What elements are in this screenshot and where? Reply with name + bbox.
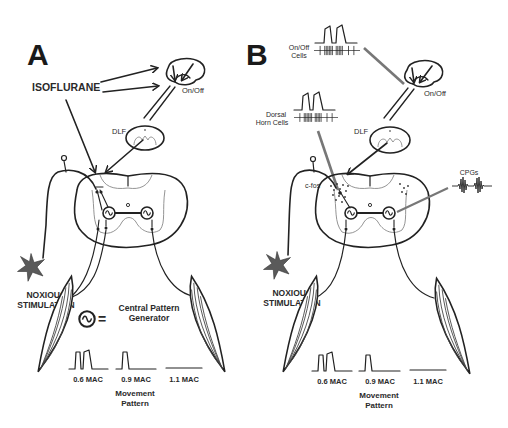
cfos-label: c-fos <box>305 182 321 189</box>
legend-equals: = <box>98 311 106 327</box>
dose-b-11-label: 1.1 MAC <box>413 377 443 386</box>
panel-b-letter: B <box>246 38 268 71</box>
svg-text:Horn Cells: Horn Cells <box>256 119 289 126</box>
legend-text-1: Central Pattern <box>119 303 180 313</box>
receptor-b-icon <box>311 157 316 162</box>
electrode-dorsal-horn <box>318 131 338 190</box>
movement-traces-b: 0.6 MAC 0.9 MAC 1.1 MAC Movement Pattern <box>312 352 446 410</box>
dose-b-09-label: 0.9 MAC <box>365 377 395 386</box>
noxious-star-b-icon <box>264 252 291 280</box>
dlf-cord-section-b: DLF <box>354 127 410 153</box>
cpg-left-icon <box>103 207 115 219</box>
electrode-cpg <box>397 188 448 212</box>
dose-09-label: 0.9 MAC <box>121 375 151 384</box>
panel-a: A ISOFLURANE On/Off DLF <box>17 38 225 408</box>
dose-06-label: 0.6 MAC <box>73 375 103 384</box>
dose-b-06-label: 0.6 MAC <box>317 377 347 386</box>
onoff-cells-recording: On/Off Cells <box>289 25 360 59</box>
svg-text:Dorsal: Dorsal <box>266 111 287 118</box>
movement-traces-a: 0.6 MAC 0.9 MAC 1.1 MAC Movement Pattern <box>69 350 202 408</box>
legend-cpg-icon <box>79 311 94 326</box>
dorsal-horn-recording: Dorsal Horn Cells <box>256 92 338 126</box>
dlf-descending-arrow <box>106 140 143 172</box>
cpgs-label: CPGs <box>460 169 479 176</box>
svg-text:Cells: Cells <box>291 52 307 59</box>
cpg-burst-trace <box>452 177 492 193</box>
cpg-b-right-icon <box>383 207 395 219</box>
legend-text-2: Generator <box>129 313 170 323</box>
right-muscle-icon <box>190 276 225 372</box>
isoflurane-arrow-cord <box>66 100 95 172</box>
isoflurane-arrow-lower <box>103 86 158 92</box>
movement-b-title-2: Pattern <box>365 401 393 410</box>
right-muscle-b-icon <box>435 278 470 374</box>
cfos-dots-right <box>399 183 409 195</box>
brainstem-onoff-label: On/Off <box>182 86 205 95</box>
movement-title-1: Movement <box>115 389 155 398</box>
receptor-icon <box>62 156 67 161</box>
electrode-onoff <box>364 48 404 84</box>
figure-canvas: A ISOFLURANE On/Off DLF <box>0 0 508 428</box>
spinal-cord-a <box>75 173 188 247</box>
brainstem-b-onoff-label: On/Off <box>424 89 447 98</box>
dose-11-label: 1.1 MAC <box>169 375 199 384</box>
dlf-cord-section: DLF <box>112 126 164 150</box>
cpg-b-left-icon <box>345 207 357 219</box>
svg-text:DLF: DLF <box>354 127 369 136</box>
svg-text:DLF: DLF <box>112 127 127 136</box>
movement-b-title-1: Movement <box>359 391 399 400</box>
isoflurane-label: ISOFLURANE <box>32 81 100 93</box>
cpg-right-icon <box>141 207 153 219</box>
dlf-descending-arrow-b <box>348 143 387 174</box>
panel-a-letter: A <box>27 38 49 71</box>
spinal-cord-b <box>316 173 430 247</box>
svg-text:On/Off: On/Off <box>289 44 310 51</box>
isoflurane-arrow-upper <box>101 68 157 82</box>
noxious-star-icon <box>18 254 45 282</box>
brainstem-section: On/Off <box>166 59 204 95</box>
movement-title-2: Pattern <box>121 399 149 408</box>
panel-b: B On/Off Cells Dorsal Horn Cells On/Off <box>246 25 492 410</box>
